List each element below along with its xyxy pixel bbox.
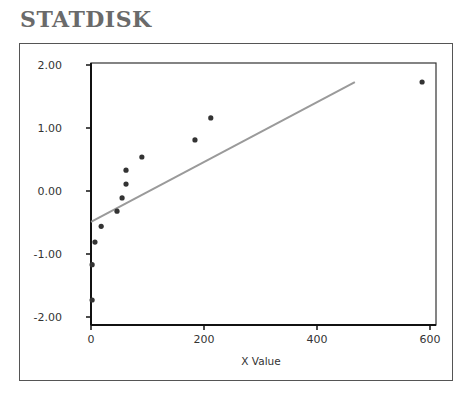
y-tick-label: 0.00 [38, 185, 63, 198]
data-point [119, 195, 124, 200]
data-point [92, 239, 97, 244]
y-tick-label: -2.00 [34, 311, 62, 324]
data-point [419, 79, 424, 84]
data-point [90, 262, 95, 267]
axis-ticks: 2.001.000.00-1.00-2.000200400600 [34, 59, 441, 346]
data-point [208, 115, 213, 120]
x-axis-title: X Value [241, 355, 280, 367]
scatter-chart: 2.001.000.00-1.00-2.000200400600 X Value [0, 0, 473, 395]
data-point [99, 224, 104, 229]
y-tick-label: 2.00 [38, 59, 63, 72]
data-point [139, 154, 144, 159]
x-tick-label: 200 [194, 333, 215, 346]
data-point [192, 137, 197, 142]
x-tick-label: 600 [420, 333, 441, 346]
regression-line [91, 82, 355, 222]
data-point [123, 181, 128, 186]
y-tick-label: -1.00 [34, 248, 62, 261]
x-tick-label: 0 [88, 333, 95, 346]
y-tick-label: 1.00 [38, 122, 63, 135]
regression-line [91, 82, 355, 222]
data-points [90, 79, 425, 302]
data-point [114, 209, 119, 214]
x-tick-label: 400 [307, 333, 328, 346]
data-point [123, 168, 128, 173]
data-point [90, 297, 95, 302]
